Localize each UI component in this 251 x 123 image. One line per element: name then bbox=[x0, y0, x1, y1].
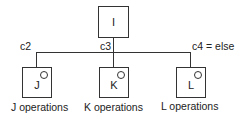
child-box-k: K bbox=[99, 67, 129, 98]
caption-k: K operations bbox=[84, 101, 143, 113]
branch-line-l bbox=[190, 52, 191, 67]
condition-label-c2: c2 bbox=[20, 40, 31, 52]
condition-label-c3: c3 bbox=[100, 40, 111, 52]
child-box-l: L bbox=[176, 67, 206, 98]
branch-horizontal-line bbox=[36, 52, 191, 53]
child-label-l: L bbox=[177, 79, 205, 91]
child-box-j: J bbox=[22, 67, 52, 98]
selection-circle-icon bbox=[194, 71, 202, 79]
child-label-k: K bbox=[100, 79, 128, 91]
root-label: I bbox=[99, 16, 128, 28]
root-box-i: I bbox=[98, 6, 129, 38]
selection-circle-icon bbox=[117, 71, 125, 79]
caption-j: J operations bbox=[11, 101, 68, 113]
condition-label-c4: c4 = else bbox=[192, 40, 234, 52]
selection-circle-icon bbox=[40, 71, 48, 79]
branch-line-j bbox=[36, 52, 37, 67]
caption-l: L operations bbox=[161, 100, 218, 112]
child-label-j: J bbox=[23, 79, 51, 91]
